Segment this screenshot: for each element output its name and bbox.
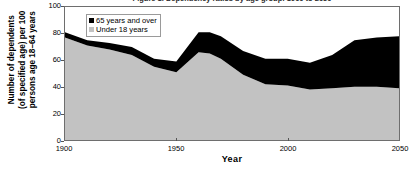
x-axis-title: Year bbox=[64, 154, 400, 164]
x-tick-mark bbox=[288, 138, 289, 141]
y-tick-label: 20 bbox=[41, 110, 61, 118]
y-axis-title: Number of dependents (of specified age) … bbox=[7, 0, 39, 120]
legend-swatch-black-icon bbox=[89, 18, 94, 23]
x-tick-label: 1900 bbox=[56, 144, 73, 153]
y-tick-mark bbox=[61, 141, 64, 142]
y-tick-label: 40 bbox=[41, 83, 61, 91]
y-axis-tick-labels: 020406080100 bbox=[40, 0, 61, 148]
legend-item-under-18: Under 18 years bbox=[89, 25, 157, 34]
chart-title: Figure 1. Dependency ratios by age group… bbox=[64, 0, 400, 3]
legend-item-65-and-over: 65 years and over bbox=[89, 16, 157, 25]
y-tick-mark bbox=[61, 87, 64, 88]
y-tick-mark bbox=[61, 114, 64, 115]
chart-legend: 65 years and over Under 18 years bbox=[86, 14, 161, 37]
x-tick-label: 1950 bbox=[168, 144, 185, 153]
y-tick-label: 100 bbox=[41, 2, 61, 10]
legend-swatch-gray-icon bbox=[89, 27, 94, 32]
legend-label-65-and-over: 65 years and over bbox=[96, 16, 157, 25]
x-axis-tick-labels: 1900195020002050 bbox=[0, 141, 410, 153]
y-tick-mark bbox=[61, 60, 64, 61]
chart-figure: Figure 1. Dependency ratios by age group… bbox=[0, 0, 410, 170]
y-tick-label: 80 bbox=[41, 29, 61, 37]
x-tick-label: 2050 bbox=[392, 144, 409, 153]
x-tick-mark bbox=[176, 138, 177, 141]
x-tick-label: 2000 bbox=[280, 144, 297, 153]
y-tick-label: 60 bbox=[41, 56, 61, 64]
y-tick-mark bbox=[61, 6, 64, 7]
y-tick-mark bbox=[61, 33, 64, 34]
legend-label-under-18: Under 18 years bbox=[96, 25, 148, 34]
